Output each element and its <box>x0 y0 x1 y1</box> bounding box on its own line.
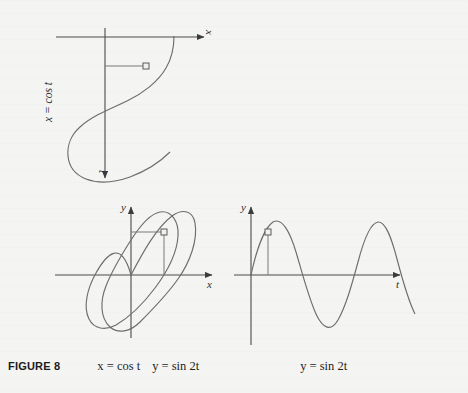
lissajous-x-axis-label: x <box>206 278 212 290</box>
figure-caption: FIGURE 8 x = cos t y = sin 2t y = sin 2t <box>0 352 468 380</box>
figure-canvas: x t x = cos t y x <box>0 0 468 393</box>
top-x-axis-label: x <box>204 29 216 35</box>
figure-number-label: FIGURE 8 <box>8 360 60 372</box>
caption-equation-x-cos-t: x = cos t <box>97 359 140 374</box>
top-point-marker <box>143 63 149 69</box>
sine-curve <box>251 221 415 327</box>
top-equation-label: x = cos t <box>42 81 54 123</box>
caption-equation-y-sin-2t-right: y = sin 2t <box>300 359 347 374</box>
top-cosine-curve <box>68 36 174 182</box>
sine-point-marker <box>265 229 271 235</box>
sine-y-axis-label: y <box>240 201 246 213</box>
sine-t-axis-label: t <box>396 278 400 290</box>
rotated-cosine-panel: x t x = cos t <box>42 28 216 182</box>
caption-equation-y-sin-2t-left: y = sin 2t <box>152 359 199 374</box>
lissajous-y-axis-label: y <box>120 201 126 213</box>
figure-page: x t x = cos t y x <box>0 0 468 393</box>
sine-panel: y t <box>234 201 415 345</box>
lissajous-curve <box>86 212 195 332</box>
lissajous-point-marker <box>161 229 167 235</box>
lissajous-panel: y x <box>55 201 212 338</box>
top-t-axis-label: t <box>97 170 109 174</box>
